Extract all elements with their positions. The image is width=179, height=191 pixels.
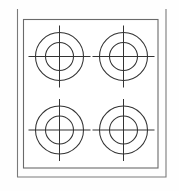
cooktop-surface-panel <box>24 20 159 169</box>
cooktop-diagram-svg: Rear Left BurnerRear Right BurnerFront L… <box>0 0 179 191</box>
cooktop-diagram-canvas: Rear Left BurnerRear Right BurnerFront L… <box>0 0 179 191</box>
